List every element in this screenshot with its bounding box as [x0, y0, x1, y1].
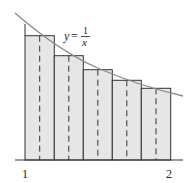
function-label: y = 1 x [63, 25, 90, 48]
svg-text:=: = [71, 29, 78, 43]
midpoint-rule-diagram: 1 2 y = 1 x [0, 0, 196, 183]
svg-text:x: x [81, 36, 87, 48]
tick-label-1: 1 [22, 167, 28, 181]
tick-label-2: 2 [166, 167, 172, 181]
svg-text:y: y [63, 29, 70, 43]
svg-text:1: 1 [83, 25, 88, 36]
